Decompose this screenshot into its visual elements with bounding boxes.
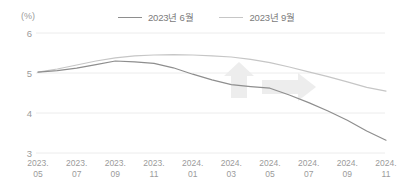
x-tick-year: 2024. [211,158,251,169]
x-tick-year: 2023. [18,158,58,169]
x-tick-year: 2024. [289,158,329,169]
x-tick-label: 2024. 07 [289,158,329,180]
arrow-up-watermark-icon [224,62,254,98]
x-tick-label: 2024. 11 [366,158,401,180]
x-tick-month: 07 [57,169,97,180]
x-tick-month: 11 [366,169,401,180]
arrow-right-watermark-icon [262,73,316,101]
x-tick-month: 03 [211,169,251,180]
x-tick-label: 2023. 07 [57,158,97,180]
x-tick-year: 2024. [327,158,367,169]
x-tick-year: 2024. [250,158,290,169]
x-tick-label: 2023. 05 [18,158,58,180]
x-tick-label: 2024. 03 [211,158,251,180]
x-tick-label: 2024. 09 [327,158,367,180]
x-tick-month: 05 [250,169,290,180]
x-tick-month: 09 [327,169,367,180]
x-tick-year: 2024. [173,158,213,169]
x-tick-month: 07 [289,169,329,180]
x-tick-label: 2023. 11 [134,158,174,180]
x-tick-year: 2023. [134,158,174,169]
x-tick-label: 2023. 09 [95,158,135,180]
x-tick-month: 09 [95,169,135,180]
x-tick-year: 2023. [95,158,135,169]
gridlines [36,33,385,153]
x-tick-year: 2023. [57,158,97,169]
x-tick-label: 2024. 05 [250,158,290,180]
x-axis: 2023. 05 2023. 07 2023. 09 2023. 11 2024… [30,158,385,192]
x-tick-month: 01 [173,169,213,180]
x-tick-label: 2024. 01 [173,158,213,180]
x-tick-month: 05 [18,169,58,180]
x-tick-month: 11 [134,169,174,180]
x-tick-year: 2024. [366,158,401,169]
